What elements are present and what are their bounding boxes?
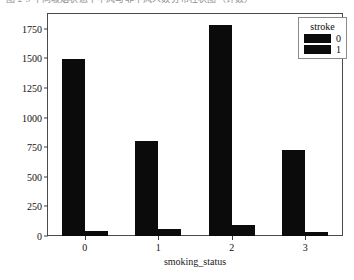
bar[interactable] (158, 229, 181, 236)
x-axis-label: smoking_status (48, 256, 342, 267)
bar[interactable] (135, 141, 158, 236)
y-tick-label: 1750 (4, 23, 48, 34)
legend-label: 0 (336, 34, 341, 43)
y-tick-label: 1250 (4, 83, 48, 94)
figure-caption-text: 图 2-5 不同吸烟状态下中风与非中风人数分布柱状图（计数） (6, 0, 254, 5)
x-tick-mark (232, 236, 233, 240)
y-tick-label: 1000 (4, 112, 48, 123)
legend: stroke 01 (298, 17, 347, 59)
bar-group (62, 14, 108, 236)
x-tick-label: 1 (156, 242, 161, 253)
x-tick-mark (85, 236, 86, 240)
bar-group (135, 14, 181, 236)
legend-swatch (304, 34, 331, 43)
y-tick-label: 1500 (4, 53, 48, 64)
y-tick-label: 0 (4, 231, 48, 242)
x-tick-mark (305, 236, 306, 240)
bar[interactable] (209, 25, 232, 236)
x-tick-label: 2 (229, 242, 234, 253)
x-tick-label: 0 (82, 242, 87, 253)
legend-rows: 01 (304, 34, 341, 54)
legend-item[interactable]: 0 (304, 34, 341, 43)
bar[interactable] (232, 225, 255, 236)
legend-item[interactable]: 1 (304, 45, 341, 54)
figure-container: 图 2-5 不同吸烟状态下中风与非中风人数分布柱状图（计数） count 025… (0, 0, 354, 280)
bar-group (209, 14, 255, 236)
legend-swatch (304, 45, 331, 54)
x-tick-mark (158, 236, 159, 240)
bar[interactable] (85, 231, 108, 236)
bar[interactable] (282, 150, 305, 236)
legend-label: 1 (336, 45, 341, 54)
bar[interactable] (305, 232, 328, 236)
bar[interactable] (62, 59, 85, 236)
legend-title: stroke (304, 21, 341, 32)
figure-caption-strip: 图 2-5 不同吸烟状态下中风与非中风人数分布柱状图（计数） (0, 0, 354, 11)
x-tick-label: 3 (303, 242, 308, 253)
y-tick-label: 750 (4, 142, 48, 153)
y-tick-label: 500 (4, 171, 48, 182)
y-tick-label: 250 (4, 201, 48, 212)
